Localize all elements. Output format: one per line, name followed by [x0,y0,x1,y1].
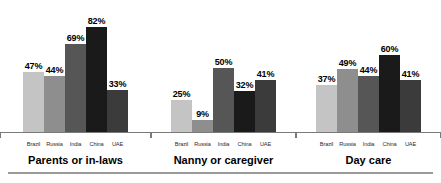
bar-value-label: 25% [173,89,190,99]
bar-slot-group-0-uae[interactable]: 33% [107,2,128,132]
bar-group-2-uae[interactable] [400,80,421,132]
plot-area-group-1: 25% 9% 50% 32% 41% [151,2,296,132]
bottom-divider [8,172,433,174]
bar-value-label: 44% [360,65,377,75]
bar-slot-group-1-brazil[interactable]: 25% [171,2,192,132]
category-labels-group-2: Brazil Russia India China UAE [296,139,441,147]
bar-group-1-china[interactable] [234,91,255,132]
bar-slot-group-2-china[interactable]: 60% [379,2,400,132]
chart-groups-row: 47% 44% 69% 82% 33% [0,0,441,166]
chart-group-parents-or-in-laws: 47% 44% 69% 82% 33% [0,0,151,166]
bar-value-label: 41% [257,69,274,79]
bar-value-label: 9% [196,109,209,119]
group-title-1: Nanny or caregiver [151,147,296,166]
bar-slot-group-1-china[interactable]: 32% [234,2,255,132]
bar-group-1-brazil[interactable] [171,100,192,132]
bar-group-2-russia[interactable] [337,69,358,132]
bar-value-label: 41% [402,69,419,79]
bar-group-2-china[interactable] [379,55,400,132]
plot-area-group-2: 37% 49% 44% 60% 41% [296,2,441,132]
x-axis-group-2 [296,132,441,139]
bar-slot-group-0-china[interactable]: 82% [86,2,107,132]
bar-value-label: 32% [236,80,253,90]
bar-group-0-india[interactable] [65,44,86,132]
bar-value-label: 47% [25,61,42,71]
bar-value-label: 44% [46,65,63,75]
bar-value-label: 50% [215,57,232,67]
bar-slot-group-1-russia[interactable]: 9% [192,2,213,132]
bar-value-label: 33% [109,79,126,89]
bar-value-label: 69% [67,33,84,43]
bar-group-0-china[interactable] [86,27,107,132]
bar-group-0-uae[interactable] [107,90,128,132]
bar-value-label: 49% [339,58,356,68]
bar-group-1-russia[interactable] [192,120,213,132]
category-labels-group-1: Brazil Russia India China UAE [151,139,296,147]
plot-area-group-0: 47% 44% 69% 82% 33% [0,2,151,132]
bar-slot-group-2-russia[interactable]: 49% [337,2,358,132]
bar-group-1-uae[interactable] [255,80,276,132]
bar-group-1-india[interactable] [213,68,234,132]
bar-value-label: 60% [381,44,398,54]
category-labels-group-0: Brazil Russia India China UAE [0,139,151,147]
bar-group-0-brazil[interactable] [23,72,44,132]
bar-group-2-brazil[interactable] [316,85,337,132]
bar-value-label: 82% [88,16,105,26]
bar-slot-group-0-india[interactable]: 69% [65,2,86,132]
chart-group-nanny-or-caregiver: 25% 9% 50% 32% 41% [151,0,296,166]
bar-slot-group-2-india[interactable]: 44% [358,2,379,132]
bar-group-2-india[interactable] [358,76,379,132]
bar-slot-group-0-russia[interactable]: 44% [44,2,65,132]
bar-slot-group-1-india[interactable]: 50% [213,2,234,132]
bar-slot-group-1-uae[interactable]: 41% [255,2,276,132]
bar-slot-group-2-uae[interactable]: 41% [400,2,421,132]
group-title-0: Parents or in-laws [0,147,151,166]
bar-slot-group-2-brazil[interactable]: 37% [316,2,337,132]
bar-group-0-russia[interactable] [44,76,65,132]
x-axis-group-0 [0,132,151,139]
group-title-2: Day care [296,147,441,166]
bar-slot-group-0-brazil[interactable]: 47% [23,2,44,132]
chart-group-day-care: 37% 49% 44% 60% 41% [296,0,441,166]
bar-value-label: 37% [318,74,335,84]
grouped-bar-chart: 47% 44% 69% 82% 33% [0,0,441,183]
x-axis-group-1 [151,132,296,139]
